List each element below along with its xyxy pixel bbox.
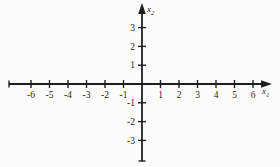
x-tick-label: 2 [177, 90, 182, 100]
axes-svg: -6 -5 -4 -3 -2 -1 1 2 3 4 5 6 3 2 1 -1 -… [0, 0, 280, 167]
y-tick-label: -2 [127, 117, 135, 127]
y-tick-label: 1 [130, 60, 135, 70]
x-tick-label: 4 [214, 90, 219, 100]
x-tick-label: -6 [27, 90, 35, 100]
x-tick-label: 1 [158, 90, 163, 100]
x-tick-label: 5 [232, 90, 237, 100]
x-tick-label: 3 [195, 90, 200, 100]
y-tick-label: 2 [130, 42, 135, 52]
y-tick-label: 3 [130, 23, 135, 33]
y-tick-label: -1 [127, 98, 135, 108]
x-tick-label: -4 [64, 90, 72, 100]
x-tick-label: 6 [251, 90, 256, 100]
x-tick-label: -5 [46, 90, 54, 100]
x-axis-label-subscript: 1 [266, 91, 269, 98]
x-tick-label: -2 [101, 90, 109, 100]
y-tick-label: -3 [127, 136, 135, 146]
coordinate-plane-figure: -6 -5 -4 -3 -2 -1 1 2 3 4 5 6 3 2 1 -1 -… [0, 0, 280, 167]
x-tick-label: -3 [83, 90, 91, 100]
